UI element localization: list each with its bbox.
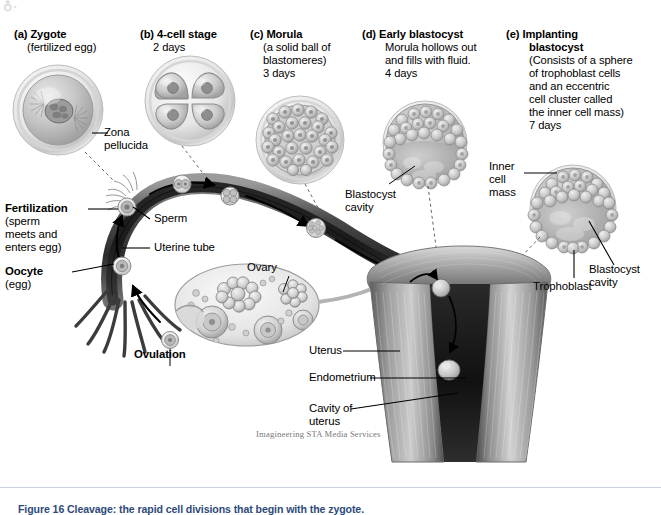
label-ovary: Ovary [247, 261, 277, 274]
figure-canvas: ♁· (a) Zygote (fertilized egg) (b) 4-cel… [0, 0, 661, 515]
blastocyst-in-uterus [432, 279, 450, 297]
label-fertilization-sub: (sperm meets and enters egg) [5, 215, 62, 254]
zygote-cell-illustration [13, 65, 103, 155]
artwork-credit: Imagineering STA Media Services [256, 429, 381, 439]
oocyte-in-tube [113, 257, 131, 275]
label-uterine-tube: Uterine tube [154, 241, 215, 254]
implanted-blastocyst [438, 360, 460, 380]
early-blastocyst-illustration [383, 101, 468, 189]
four-cell-stage-illustration [145, 56, 235, 146]
blastomeres [262, 104, 338, 176]
caption-divider [0, 487, 661, 488]
ovulated-oocyte [162, 332, 179, 349]
label-trophoblast: Trophoblast [533, 280, 592, 293]
label-oocyte: Oocyte [5, 265, 43, 278]
uterus [367, 246, 551, 462]
label-uterus: Uterus [309, 344, 342, 357]
label-inner-cell-mass: Inner cell mass [489, 160, 516, 199]
label-zona-pellucida: Zona pellucida [104, 126, 148, 152]
label-oocyte-sub: (egg) [5, 278, 31, 291]
label-sperm: Sperm [154, 212, 187, 225]
morula-illustration [256, 96, 344, 184]
label-endometrium: Endometrium [309, 371, 376, 384]
label-blastocyst-cavity-e: Blastocyst cavity [589, 263, 640, 289]
four-cell-in-tube [221, 187, 239, 205]
figure-caption: Figure 16 Cleavage: the rapid cell divis… [18, 503, 364, 515]
label-fertilization: Fertilization [5, 202, 68, 215]
label-cavity-of-uterus: Cavity of uterus [309, 402, 352, 428]
label-ovulation: Ovulation [134, 348, 186, 361]
implanting-blastocyst-illustration [528, 165, 618, 254]
morula-in-tube [307, 219, 326, 238]
two-cell-in-tube [173, 175, 191, 193]
ovary [173, 264, 374, 346]
